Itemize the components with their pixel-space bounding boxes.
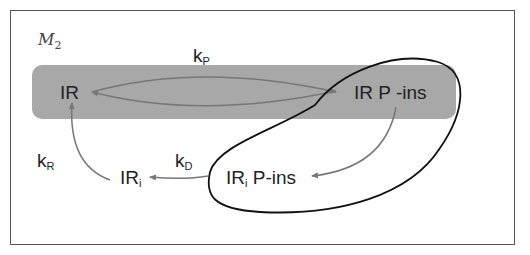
binding-arrow — [92, 77, 336, 92]
node-ir: IR — [60, 83, 79, 102]
rate-kr-label: kR — [37, 151, 54, 172]
reaction-edges — [0, 0, 530, 255]
model-label: M2 — [38, 30, 61, 52]
node-iri-p-ins: IRi P-ins — [226, 168, 296, 189]
rate-kd-label: kD — [175, 151, 192, 172]
node-ir-p-ins: IR P -ins — [354, 83, 427, 102]
node-iri: IRi — [120, 168, 141, 189]
unbinding-arrow — [92, 91, 336, 106]
dissociation-arrow — [150, 176, 208, 178]
internalization-arrow — [312, 107, 396, 176]
rate-kp-label: kP — [193, 46, 210, 67]
recycling-arrow — [72, 103, 110, 180]
